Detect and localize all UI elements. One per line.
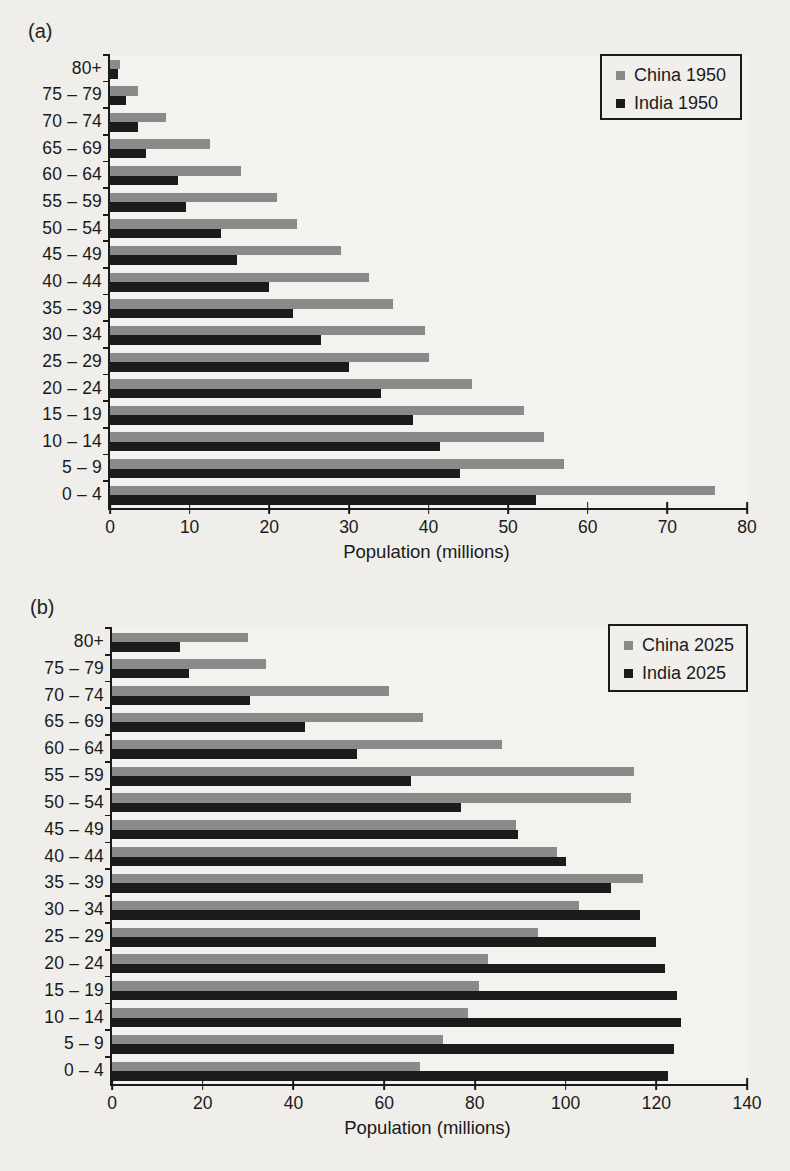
x-tick-label: 20 [260,517,279,538]
y-axis-label: 65 – 69 [0,135,102,162]
bar-china-1950 [110,139,210,149]
bar-india-1950 [110,389,381,399]
y-axis-label: 25 – 29 [0,348,102,375]
y-axis-label: 35 – 39 [0,869,104,896]
x-tick [655,1078,657,1090]
bar-india-2025 [112,722,305,732]
x-tick [202,1078,204,1090]
x-axis-title: Population (millions) [110,1117,745,1139]
y-axis-label: 30 – 34 [0,896,104,923]
x-tick [428,502,430,514]
y-axis-label: 30 – 34 [0,321,102,348]
bar-china-2025 [112,1035,443,1045]
y-axis-label: 20 – 24 [0,950,104,977]
bar-china-2025 [112,874,643,884]
x-tick [348,502,350,514]
y-axis-label: 5 – 9 [0,1030,104,1057]
page: (a) 80+75 – 7970 – 7465 – 6960 – 6455 – … [0,0,790,1171]
y-axis-label: 50 – 54 [0,215,102,242]
legend: China 1950 India 1950 [600,54,742,120]
bar-china-1950 [110,113,166,123]
bar-india-2025 [112,669,189,679]
bar-group [112,896,747,923]
y-axis-label: 75 – 79 [0,82,102,109]
x-tick [111,1078,113,1090]
bar-china-1950 [110,299,393,309]
x-tick [565,1078,567,1090]
bar-group [112,1030,747,1057]
y-axis-label: 65 – 69 [0,708,104,735]
legend-label: India 1950 [634,93,718,114]
y-axis-label: 45 – 49 [0,241,102,268]
y-axis-label: 55 – 59 [0,188,102,215]
bar-india-1950 [110,282,269,292]
bar-china-1950 [110,246,341,256]
y-axis-label: 0 – 4 [0,481,102,508]
bar-rows [110,55,747,508]
x-tick-label: 40 [419,517,438,538]
y-axis-label: 40 – 44 [0,843,104,870]
bar-india-2025 [112,1044,674,1054]
bar-india-1950 [110,415,413,425]
bar-china-2025 [112,928,538,938]
bar-india-2025 [112,1018,681,1028]
bar-india-2025 [112,830,518,840]
x-tick-label: 70 [658,517,677,538]
bar-group [112,789,747,816]
x-tick-label: 100 [551,1093,580,1114]
bar-india-1950 [110,202,186,212]
bar-china-2025 [112,1008,468,1018]
bar-china-2025 [112,713,423,723]
bar-group [112,762,747,789]
x-tick-label: 50 [498,517,517,538]
bar-india-1950 [110,176,178,186]
x-tick-label: 20 [193,1093,212,1114]
x-tick-label: 40 [284,1093,303,1114]
bar-india-1950 [110,149,146,159]
y-axis-label: 5 – 9 [0,455,102,482]
bar-india-2025 [112,749,357,759]
x-tick-label: 120 [642,1093,671,1114]
bar-china-1950 [110,193,277,203]
y-axis-label: 10 – 14 [0,428,102,455]
y-axis-label: 35 – 39 [0,295,102,322]
legend-label: China 2025 [642,635,734,656]
bar-china-1950 [110,432,544,442]
bar-india-2025 [112,803,461,813]
bar-group [110,268,747,295]
x-tick [293,1078,295,1090]
x-tick-label: 140 [732,1093,761,1114]
bar-china-1950 [110,60,120,70]
bar-group [110,401,747,428]
legend-item-china-1950: China 1950 [616,65,728,86]
bar-group [112,843,747,870]
bar-india-2025 [112,937,656,947]
bar-group [110,321,747,348]
bar-group [110,135,747,162]
x-tick [746,1078,748,1090]
bar-india-2025 [112,964,665,974]
bar-india-1950 [110,122,138,132]
x-tick [746,502,748,514]
y-axis-label: 20 – 24 [0,375,102,402]
bar-group [110,188,747,215]
bar-india-1950 [110,335,321,345]
bar-group [112,950,747,977]
legend-swatch-india-icon [624,669,633,678]
bar-india-1950 [110,255,237,265]
bar-group [112,708,747,735]
bar-china-2025 [112,767,634,777]
bar-china-2025 [112,633,248,643]
x-tick [507,502,509,514]
bar-group [112,1004,747,1031]
legend: China 2025 India 2025 [608,624,748,692]
bar-china-1950 [110,219,297,229]
x-axis-title: Population (millions) [108,541,745,563]
x-tick [667,502,669,514]
bar-india-2025 [112,883,611,893]
bar-india-1950 [110,362,349,372]
bar-india-1950 [110,442,440,452]
legend-label: India 2025 [642,663,726,684]
y-axis-label: 60 – 64 [0,735,104,762]
x-tick-label: 0 [105,517,115,538]
